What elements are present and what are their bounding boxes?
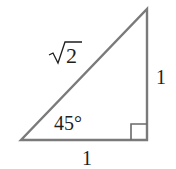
hypotenuse-radicand: 2 [66,43,77,68]
hypotenuse-label: 2 [49,42,82,68]
angle-label: 45° [54,112,82,134]
triangle-outline [21,9,147,140]
right-triangle-diagram: 2 45° 1 1 [0,0,176,169]
horizontal-side-label: 1 [82,147,92,169]
right-angle-marker [131,124,147,140]
vertical-side-label: 1 [156,66,166,88]
